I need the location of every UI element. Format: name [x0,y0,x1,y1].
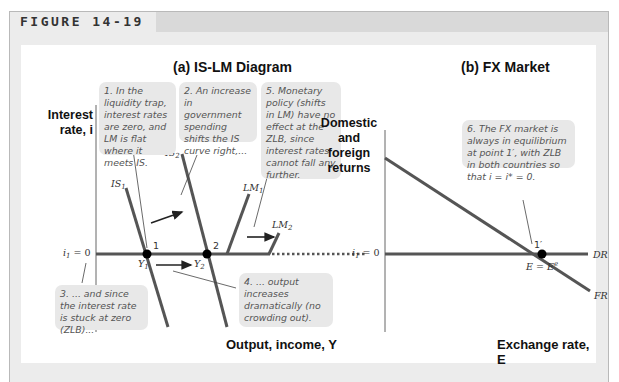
note-3: 3. ... and since the interest rate is st… [55,285,148,330]
point-2-label: 2 [213,240,219,251]
note-6: 6. The FX market is always in equilibriu… [462,120,575,168]
note-4: 4. ... output increases dramatically (no… [239,273,333,327]
dr-label: DR [593,249,608,260]
figure-frame: FIGURE 14-19 [9,11,609,382]
lm1-curve [227,194,249,254]
rate-label-b: i1 = 0 [352,247,380,260]
panel-b-x-axis-label: Exchange rate, E [497,337,596,367]
panel-a-y-axis-label: Interest rate, i [24,108,93,138]
fr-label: FR [594,290,608,301]
panel-a-title: (a) IS-LM Diagram [173,59,292,75]
eq-label: E = Ee [526,260,558,272]
note-1: 1. In the liquidity trap, interest rates… [99,82,176,155]
panel-b-title: (b) FX Market [461,59,550,75]
note3-leader [82,263,86,283]
rate-label-a: i1 = 0 [63,247,91,260]
panel-a-x-axis-label: Output, income, Y [226,337,337,352]
figure-header-bar: FIGURE 14-19 [10,12,608,32]
note4-leader [173,271,236,288]
figure-panel: (a) IS-LM Diagram Interest rate, i Outpu… [21,45,596,363]
is-shift-arrow [151,212,182,223]
is2-curve [182,154,227,327]
is1-label: IS1 [111,178,126,191]
point-1-prime [538,250,547,259]
note-2: 2. An increase in government spending sh… [179,82,257,142]
lm2-label: LM2 [272,219,293,232]
point-1-prime-label: 1′ [534,239,542,250]
point-1-label: 1 [153,240,159,251]
note6-leader [523,200,532,244]
y2-label: Y2 [194,258,205,271]
lm1-label: LM1 [243,182,264,195]
lm2-curve [269,233,279,254]
y1-label: Y1 [138,258,149,271]
figure-label: FIGURE 14-19 [10,12,156,32]
panel-b-y-axis-label: Domestic and foreign returns [315,116,383,176]
